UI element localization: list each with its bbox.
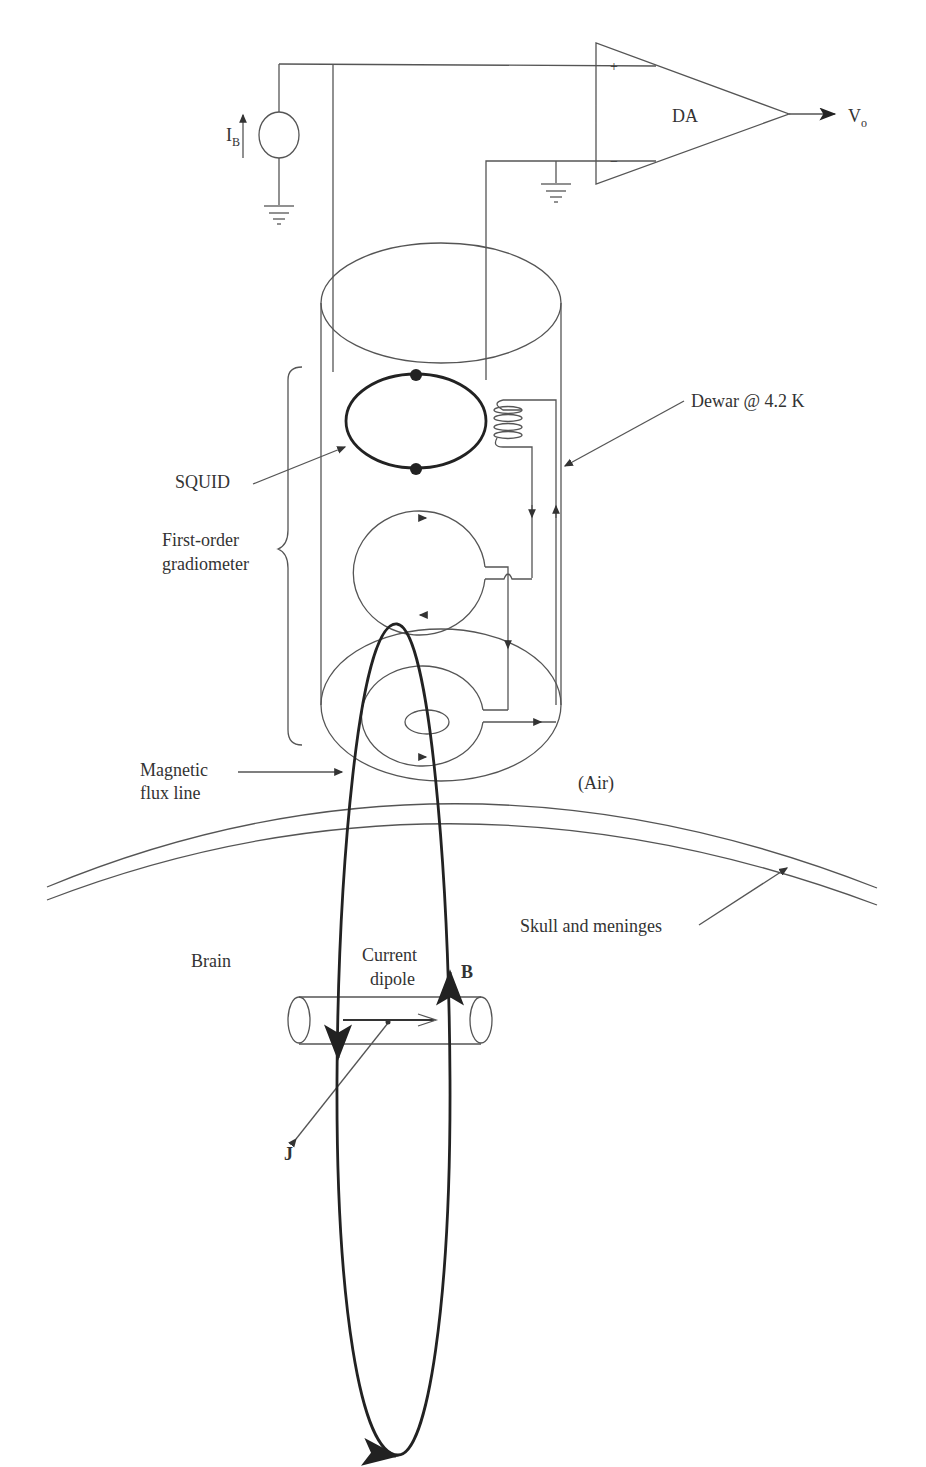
skull-label: Skull and meninges bbox=[520, 916, 662, 936]
magnetic-flux-loop bbox=[337, 624, 450, 1456]
brain-label: Brain bbox=[191, 951, 231, 971]
dipole-label-2: dipole bbox=[370, 969, 415, 989]
current-source-icon bbox=[259, 112, 299, 158]
current-j-label: J bbox=[284, 1144, 293, 1164]
gradiometer-label-2: gradiometer bbox=[162, 554, 249, 574]
dewar-cylinder bbox=[321, 243, 561, 781]
coupling-coil bbox=[494, 400, 556, 705]
ground-icon bbox=[264, 206, 294, 224]
gradiometer-pickup-loop bbox=[361, 666, 556, 766]
bias-current-label: IB bbox=[226, 125, 240, 149]
ground-icon bbox=[541, 184, 571, 202]
squid-label: SQUID bbox=[175, 472, 230, 492]
josephson-junction-icon bbox=[410, 463, 422, 475]
amp-minus-label: − bbox=[610, 154, 618, 169]
field-b-label: B bbox=[461, 962, 473, 982]
flux-label-2: flux line bbox=[140, 783, 201, 803]
brace-icon bbox=[278, 367, 302, 745]
air-label: (Air) bbox=[578, 773, 614, 794]
josephson-junction-icon bbox=[410, 369, 422, 381]
amp-plus-label: + bbox=[610, 59, 618, 74]
gradiometer-upper-loop bbox=[353, 511, 532, 635]
dewar-label: Dewar @ 4.2 K bbox=[691, 391, 805, 411]
flux-label-1: Magnetic bbox=[140, 760, 208, 780]
gradiometer-label-1: First-order bbox=[162, 530, 239, 550]
dipole-label-1: Current bbox=[362, 945, 417, 965]
output-label: Vo bbox=[848, 106, 867, 130]
meg-diagram: IB + − DA Vo Dewar @ 4.2 K SQUID First-o… bbox=[0, 0, 926, 1467]
squid-ring bbox=[346, 369, 486, 475]
amplifier-label: DA bbox=[672, 106, 698, 126]
bias-circuit bbox=[243, 43, 835, 380]
